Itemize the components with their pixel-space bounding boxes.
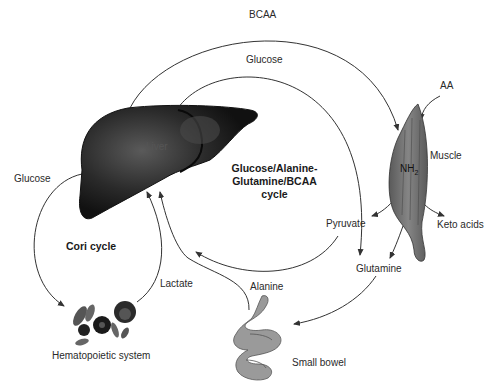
aa-arrow [421, 96, 440, 120]
glutamine-to-bowel-arrow [294, 276, 376, 324]
label-hematopoietic: Hematopoietic system [52, 350, 150, 362]
label-keto-acids: Keto acids [437, 219, 484, 231]
muscle-to-glutamine-arrow [390, 226, 403, 258]
label-small-bowel: Small bowel [292, 357, 346, 369]
label-nh2: NH2 [400, 163, 418, 176]
hematopoietic-cells [70, 301, 136, 347]
label-aa: AA [440, 80, 453, 92]
muscle-organ [389, 104, 427, 261]
label-lactate: Lactate [160, 278, 193, 290]
label-glutamine: Glutamine [356, 263, 402, 275]
label-muscle: Muscle [430, 150, 462, 162]
label-liver: Liver [146, 141, 168, 153]
pyruvate-to-liver-arrow [196, 236, 338, 271]
label-cori-cycle: Cori cycle [66, 240, 116, 253]
small-bowel-organ [234, 296, 281, 380]
lactate-flow-arrow [137, 192, 162, 302]
label-gag-cycle: Glucose/Alanine- Glutamine/BCAA cycle [222, 162, 327, 201]
bowel-to-liver-arrow [160, 192, 249, 310]
label-glucose-top: Glucose [246, 54, 283, 66]
label-bcaa: BCAA [249, 9, 276, 21]
label-pyruvate: Pyruvate [326, 218, 365, 230]
label-alanine: Alanine [250, 281, 283, 293]
muscle-to-keto-arrow [424, 204, 444, 216]
label-glucose-left: Glucose [14, 173, 51, 185]
